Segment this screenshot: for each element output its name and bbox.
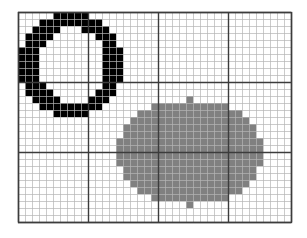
raster-grid-figure bbox=[0, 0, 307, 238]
pixel-grid-canvas bbox=[0, 0, 307, 238]
